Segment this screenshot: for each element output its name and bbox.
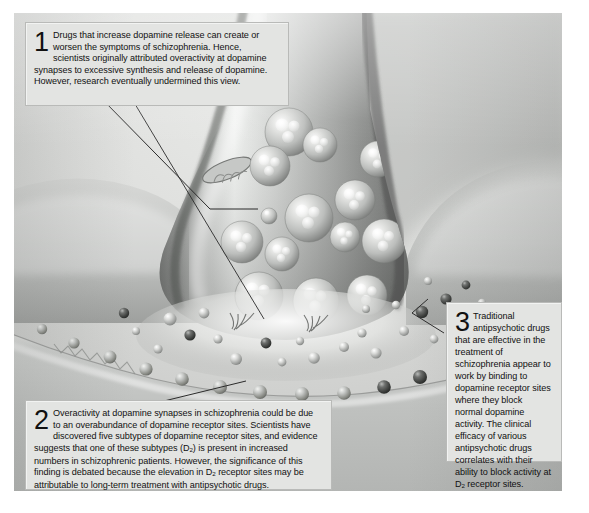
- figure-container: 1 Drugs that increase dopamine release c…: [0, 0, 589, 513]
- callout-text-3: Traditional antipsychotic drugs that are…: [455, 310, 552, 491]
- callout-text-3-head: Traditional antipsychotic drugs that are…: [455, 311, 551, 489]
- callout-text-1: Drugs that increase dopamine release can…: [34, 30, 279, 88]
- illustration-plate: 1 Drugs that increase dopamine release c…: [14, 13, 562, 491]
- callout-box-2: 2 Overactivity at dopamine synapses in s…: [25, 400, 332, 490]
- callout-text-3-tail: receptor sites.: [465, 479, 524, 489]
- callout-box-3: 3 Traditional antipsychotic drugs that a…: [446, 302, 562, 462]
- callout-number-1: 1: [34, 31, 49, 54]
- callout-box-1: 1 Drugs that increase dopamine release c…: [25, 22, 289, 106]
- callout-number-3: 3: [455, 311, 470, 333]
- callout-text-2: Overactivity at dopamine synapses in sch…: [34, 408, 322, 491]
- callout-number-2: 2: [34, 409, 49, 432]
